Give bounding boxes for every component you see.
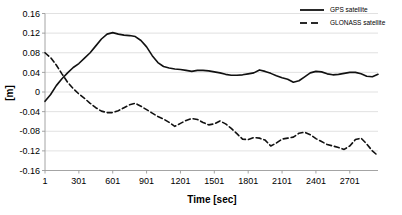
y-tick-label: 0.08 [22, 48, 40, 58]
x-tick-label: 1501 [204, 176, 224, 186]
x-tick-label: 1 [42, 176, 47, 186]
y-tick-label: -0.16 [19, 166, 40, 176]
series-line-glonass [45, 53, 378, 156]
x-tick-label: 601 [105, 176, 120, 186]
tick-marks [42, 14, 350, 174]
gridlines [45, 14, 378, 171]
y-tick-label: 0.12 [22, 28, 40, 38]
y-tick-label: -0.12 [19, 146, 40, 156]
line-chart: 0.160.120.080.040-0.04-0.08-0.12-0.16 13… [0, 0, 402, 215]
chart-legend: GPS satelliteGLONASS satellite [300, 6, 386, 26]
y-axis-tick-labels: 0.160.120.080.040-0.04-0.08-0.12-0.16 [19, 9, 40, 176]
chart-canvas: 0.160.120.080.040-0.04-0.08-0.12-0.16 13… [0, 0, 402, 215]
x-tick-label: 901 [139, 176, 154, 186]
y-axis-title: [m] [4, 85, 15, 101]
y-tick-label: -0.08 [19, 126, 40, 136]
x-tick-label: 2401 [306, 176, 326, 186]
legend-label-gps: GPS satellite [330, 6, 368, 13]
y-tick-label: -0.04 [19, 107, 40, 117]
y-tick-label: 0 [35, 87, 40, 97]
x-tick-label: 301 [71, 176, 86, 186]
x-tick-label: 1801 [238, 176, 258, 186]
x-tick-label: 1201 [170, 176, 190, 186]
series-line-gps [45, 33, 378, 102]
y-tick-label: 0.04 [22, 68, 40, 78]
x-axis-title: Time [sec] [187, 194, 236, 205]
x-tick-label: 2101 [272, 176, 292, 186]
y-tick-label: 0.16 [22, 9, 40, 19]
x-axis-tick-labels: 1301601901120115011801210124012701 [42, 176, 359, 186]
legend-label-glonass: GLONASS satellite [330, 19, 386, 26]
x-tick-label: 2701 [340, 176, 360, 186]
series-layer [45, 33, 378, 156]
